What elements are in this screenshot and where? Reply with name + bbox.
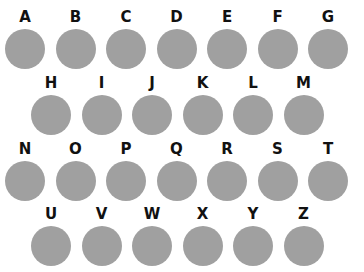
circle-icon[interactable] bbox=[157, 29, 197, 69]
letter-item-q[interactable]: Q bbox=[155, 140, 199, 201]
letter-label: H bbox=[29, 74, 73, 92]
letter-item-f[interactable]: F bbox=[256, 8, 300, 69]
letter-label: F bbox=[256, 8, 300, 26]
circle-icon[interactable] bbox=[157, 161, 197, 201]
letter-label: S bbox=[256, 140, 300, 158]
circle-icon[interactable] bbox=[233, 226, 273, 266]
letter-label: P bbox=[104, 140, 148, 158]
letter-label: M bbox=[282, 74, 326, 92]
letter-item-m[interactable]: M bbox=[282, 74, 326, 135]
letter-item-i[interactable]: I bbox=[80, 74, 124, 135]
circle-icon[interactable] bbox=[106, 29, 146, 69]
letter-label: Z bbox=[282, 205, 326, 223]
circle-icon[interactable] bbox=[284, 226, 324, 266]
letter-item-r[interactable]: R bbox=[205, 140, 249, 201]
circle-icon[interactable] bbox=[132, 95, 172, 135]
circle-icon[interactable] bbox=[207, 161, 247, 201]
letter-label: K bbox=[181, 74, 225, 92]
letter-label: A bbox=[3, 8, 47, 26]
letter-label: W bbox=[130, 205, 174, 223]
circle-icon[interactable] bbox=[284, 95, 324, 135]
circle-icon[interactable] bbox=[308, 161, 348, 201]
letter-label: B bbox=[54, 8, 98, 26]
letter-item-a[interactable]: A bbox=[3, 8, 47, 69]
letter-label: T bbox=[306, 140, 350, 158]
letter-item-k[interactable]: K bbox=[181, 74, 225, 135]
letter-label: R bbox=[205, 140, 249, 158]
letter-item-u[interactable]: U bbox=[29, 205, 73, 266]
letter-label: X bbox=[181, 205, 225, 223]
letter-item-b[interactable]: B bbox=[54, 8, 98, 69]
circle-icon[interactable] bbox=[82, 95, 122, 135]
letter-item-n[interactable]: N bbox=[3, 140, 47, 201]
letter-label: U bbox=[29, 205, 73, 223]
letter-label: E bbox=[205, 8, 249, 26]
circle-icon[interactable] bbox=[183, 226, 223, 266]
letter-item-l[interactable]: L bbox=[231, 74, 275, 135]
letter-item-s[interactable]: S bbox=[256, 140, 300, 201]
letter-item-w[interactable]: W bbox=[130, 205, 174, 266]
circle-icon[interactable] bbox=[5, 161, 45, 201]
circle-icon[interactable] bbox=[106, 161, 146, 201]
circle-icon[interactable] bbox=[31, 226, 71, 266]
letter-item-o[interactable]: O bbox=[54, 140, 98, 201]
letter-item-z[interactable]: Z bbox=[282, 205, 326, 266]
letter-label: N bbox=[3, 140, 47, 158]
circle-icon[interactable] bbox=[258, 29, 298, 69]
letter-label: C bbox=[104, 8, 148, 26]
circle-icon[interactable] bbox=[132, 226, 172, 266]
letter-label: J bbox=[130, 74, 174, 92]
letter-label: Y bbox=[231, 205, 275, 223]
circle-icon[interactable] bbox=[31, 95, 71, 135]
circle-icon[interactable] bbox=[82, 226, 122, 266]
circle-icon[interactable] bbox=[258, 161, 298, 201]
letter-item-x[interactable]: X bbox=[181, 205, 225, 266]
letter-item-t[interactable]: T bbox=[306, 140, 350, 201]
letter-item-h[interactable]: H bbox=[29, 74, 73, 135]
circle-icon[interactable] bbox=[5, 29, 45, 69]
letter-label: I bbox=[80, 74, 124, 92]
letter-label: G bbox=[306, 8, 350, 26]
letter-item-e[interactable]: E bbox=[205, 8, 249, 69]
letter-item-j[interactable]: J bbox=[130, 74, 174, 135]
letter-label: Q bbox=[155, 140, 199, 158]
circle-icon[interactable] bbox=[207, 29, 247, 69]
letter-item-c[interactable]: C bbox=[104, 8, 148, 69]
circle-icon[interactable] bbox=[233, 95, 273, 135]
letter-item-v[interactable]: V bbox=[80, 205, 124, 266]
letter-label: D bbox=[155, 8, 199, 26]
circle-icon[interactable] bbox=[56, 29, 96, 69]
letter-item-d[interactable]: D bbox=[155, 8, 199, 69]
letter-item-y[interactable]: Y bbox=[231, 205, 275, 266]
letter-label: O bbox=[54, 140, 98, 158]
circle-icon[interactable] bbox=[56, 161, 96, 201]
letter-label: L bbox=[231, 74, 275, 92]
letter-label: V bbox=[80, 205, 124, 223]
circle-icon[interactable] bbox=[183, 95, 223, 135]
circle-icon[interactable] bbox=[308, 29, 348, 69]
letter-item-g[interactable]: G bbox=[306, 8, 350, 69]
letter-item-p[interactable]: P bbox=[104, 140, 148, 201]
